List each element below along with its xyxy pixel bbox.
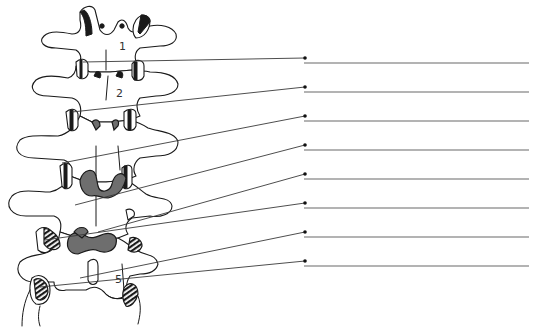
- leader-dot-1: [303, 56, 307, 60]
- answer-lines: [304, 63, 529, 266]
- leader-dot-3: [303, 114, 307, 118]
- leader-dot-5: [303, 172, 307, 176]
- vertebra-label-1: 1: [119, 40, 126, 53]
- vertebra-label-2: 2: [116, 87, 123, 100]
- vertebra-l1: [42, 6, 177, 72]
- leader-dot-6: [303, 201, 307, 205]
- leader-dot-8: [303, 259, 307, 263]
- leader-dot-4: [303, 143, 307, 147]
- leader-dot-7: [303, 230, 307, 234]
- leader-dots: [303, 56, 307, 263]
- vertebra-l4: [9, 163, 172, 240]
- leader-dot-2: [303, 85, 307, 89]
- spine-labeling-diagram: 1 2 5: [0, 0, 536, 328]
